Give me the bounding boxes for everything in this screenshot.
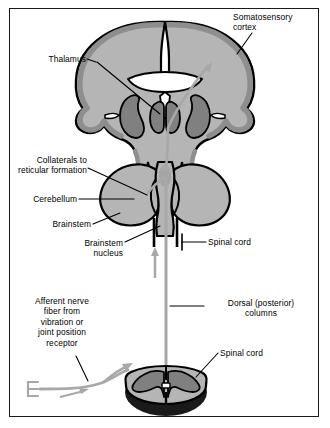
- label-brainstem: Brainstem: [0, 219, 91, 229]
- label-somatosensory-cortex: Somatosensory cortex: [233, 12, 323, 33]
- thalamus-left: [150, 102, 164, 133]
- label-dorsal-posterior-columns: Dorsal (posterior) columns: [206, 298, 316, 319]
- anatomical-figure: Somatosensory cortex Thalamus Collateral…: [0, 0, 330, 428]
- arrow-spinal-ascending: [151, 247, 159, 278]
- leader-afferent-fiber: [76, 356, 88, 381]
- label-thalamus: Thalamus: [0, 54, 86, 64]
- central-canal: [162, 383, 170, 388]
- spinal-cord-section: [125, 366, 207, 416]
- receptor-terminal: [28, 382, 38, 396]
- afferent-nerve-fiber: [28, 363, 133, 397]
- label-afferent-nerve-fiber: Afferent nerve fiber from vibration or j…: [18, 296, 106, 348]
- label-collaterals-reticular-formation: Collaterals to reticular formation: [0, 155, 87, 176]
- label-cerebellum: Cerebellum: [0, 194, 77, 204]
- leader-spinal-cord-lower: [196, 353, 218, 377]
- label-brainstem-nucleus: Brainstem nucleus: [0, 238, 123, 259]
- label-spinal-cord-lower: Spinal cord: [220, 348, 300, 358]
- label-spinal-cord-upper: Spinal cord: [208, 237, 288, 247]
